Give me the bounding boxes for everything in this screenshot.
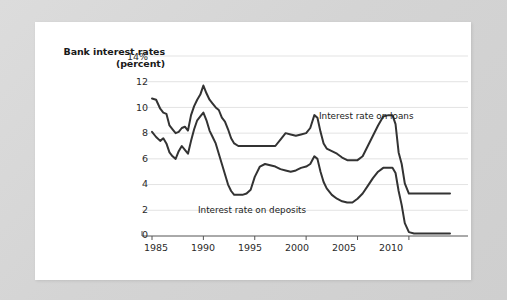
x-tick-label: 1990	[181, 243, 225, 253]
chart-card: Bank interest rates (percent) 14% 12 10 …	[35, 22, 471, 280]
x-tick-label: 2010	[369, 243, 413, 253]
chart-plot-area: Bank interest rates (percent) 14% 12 10 …	[35, 22, 471, 280]
y-tick-label: 10	[118, 103, 148, 113]
x-tick-label: 2000	[275, 243, 319, 253]
series-line-loans	[152, 86, 450, 194]
series-label-deposits: Interest rate on deposits	[198, 205, 306, 215]
y-tick-label: 14%	[118, 52, 148, 62]
x-tick-label: 1985	[134, 243, 178, 253]
x-tick-label: 1995	[228, 243, 272, 253]
y-tick-label: 2	[118, 205, 148, 215]
series-line-deposits	[152, 113, 450, 234]
axes	[142, 231, 468, 240]
x-tick-label: 2005	[322, 243, 366, 253]
y-tick-label: 6	[118, 154, 148, 164]
y-tick-label: 0	[118, 230, 148, 240]
y-tick-label: 8	[118, 128, 148, 138]
y-tick-label: 4	[118, 179, 148, 189]
y-tick-label: 12	[118, 77, 148, 87]
series-label-loans: Interest rate on loans	[319, 111, 414, 121]
